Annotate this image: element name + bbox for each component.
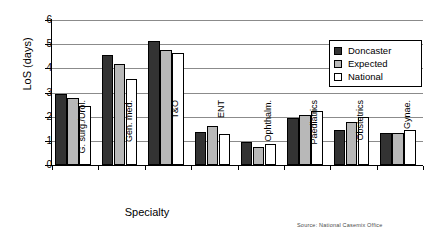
bar-doncaster[interactable] bbox=[380, 133, 392, 165]
bar-doncaster[interactable] bbox=[287, 118, 299, 165]
bar-doncaster[interactable] bbox=[241, 142, 253, 165]
legend-item-expected[interactable]: Expected bbox=[334, 57, 417, 70]
bar-group bbox=[98, 20, 144, 165]
y-tick-label: 5 bbox=[16, 39, 52, 49]
legend-item-doncaster[interactable]: Doncaster bbox=[334, 44, 417, 57]
bar-group bbox=[52, 20, 98, 165]
x-tick-mark bbox=[284, 166, 285, 170]
legend-swatch-icon bbox=[334, 47, 342, 55]
bar-doncaster[interactable] bbox=[334, 130, 346, 165]
x-tick-mark bbox=[330, 166, 331, 170]
bar-group bbox=[191, 20, 237, 165]
x-axis-title: Specialty bbox=[52, 206, 242, 218]
y-tick-label: 2 bbox=[16, 112, 52, 122]
bar-doncaster[interactable] bbox=[148, 41, 160, 165]
y-tick-label: 0 bbox=[16, 160, 52, 170]
y-tick-label: 6 bbox=[16, 15, 52, 25]
x-category-label: T&O bbox=[170, 100, 180, 170]
x-tick-mark bbox=[98, 166, 99, 170]
x-category-label: Paediatrics bbox=[309, 100, 319, 170]
x-tick-mark bbox=[423, 166, 424, 170]
x-category-label: ENT bbox=[216, 100, 226, 170]
y-tick-label: 3 bbox=[16, 88, 52, 98]
legend-label: National bbox=[348, 72, 383, 82]
x-tick-mark bbox=[191, 166, 192, 170]
chart-figure: LoS (days) 0123456 G. surg./Urol.Gen. me… bbox=[0, 0, 441, 243]
y-axis-ticks: 0123456 bbox=[0, 0, 52, 185]
legend-item-national[interactable]: National bbox=[334, 70, 417, 83]
x-tick-mark bbox=[238, 166, 239, 170]
source-note: Source: National Casemix Office bbox=[297, 222, 383, 228]
y-tick-label: 4 bbox=[16, 63, 52, 73]
x-category-label: Gynae. bbox=[402, 100, 412, 170]
x-tick-mark bbox=[52, 166, 53, 170]
x-category-label: Gen. med. bbox=[124, 100, 134, 170]
legend-swatch-icon bbox=[334, 73, 342, 81]
x-category-label: Obstetrics bbox=[355, 100, 365, 170]
x-category-label: G. surg./Urol. bbox=[77, 100, 87, 170]
bar-group bbox=[238, 20, 284, 165]
x-category-label: Ophthalm. bbox=[263, 100, 273, 170]
x-tick-mark bbox=[145, 166, 146, 170]
legend-label: Expected bbox=[348, 59, 388, 69]
chart-legend: DoncasterExpectedNational bbox=[329, 40, 422, 87]
y-tick-label: 1 bbox=[16, 136, 52, 146]
x-tick-mark bbox=[377, 166, 378, 170]
bar-group bbox=[145, 20, 191, 165]
bar-group bbox=[284, 20, 330, 165]
bar-doncaster[interactable] bbox=[102, 55, 114, 165]
legend-swatch-icon bbox=[334, 60, 342, 68]
bar-doncaster[interactable] bbox=[55, 94, 67, 165]
legend-label: Doncaster bbox=[348, 46, 391, 56]
bar-doncaster[interactable] bbox=[195, 132, 207, 165]
